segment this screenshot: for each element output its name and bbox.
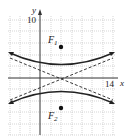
x-tick-label: 14 <box>105 79 115 89</box>
y-arrow-icon <box>38 9 42 15</box>
x-axis-label: x <box>119 78 124 88</box>
grid <box>8 16 115 135</box>
hyperbola-diagram: F1 F2 y 10 14 x <box>0 0 138 137</box>
y-tick-label: 10 <box>27 15 37 25</box>
upper-branch <box>10 53 113 65</box>
axes <box>8 12 118 135</box>
focus-f1-label: F1 <box>47 34 58 47</box>
focus-f1-point <box>59 45 63 49</box>
focus-f2-point <box>59 106 63 110</box>
y-axis-label: y <box>31 5 36 15</box>
